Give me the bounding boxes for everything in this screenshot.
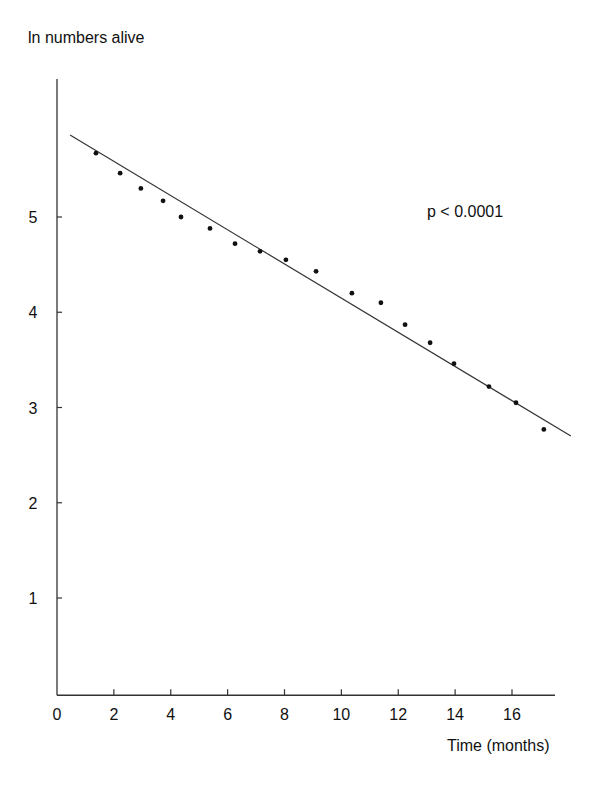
data-point bbox=[514, 400, 519, 405]
x-tick-label: 16 bbox=[503, 706, 521, 723]
regression-line bbox=[70, 135, 571, 436]
data-point bbox=[487, 384, 492, 389]
data-point bbox=[233, 241, 238, 246]
y-tick-label: 5 bbox=[29, 209, 38, 226]
data-point bbox=[403, 322, 408, 327]
x-tick-label: 2 bbox=[109, 706, 118, 723]
y-tick-label: 2 bbox=[29, 495, 38, 512]
data-point bbox=[428, 340, 433, 345]
data-point bbox=[541, 427, 546, 432]
data-point bbox=[138, 186, 143, 191]
axis-ticks: 024681012141612345 bbox=[29, 209, 521, 723]
x-tick-label: 0 bbox=[53, 706, 62, 723]
data-point bbox=[452, 361, 457, 366]
x-tick-label: 12 bbox=[389, 706, 407, 723]
y-axis-title: ln numbers alive bbox=[28, 29, 145, 47]
data-point bbox=[314, 269, 319, 274]
x-tick-label: 4 bbox=[166, 706, 175, 723]
y-tick-label: 4 bbox=[29, 304, 38, 321]
x-tick-label: 8 bbox=[280, 706, 289, 723]
p-value-annotation: p < 0.0001 bbox=[427, 203, 503, 221]
data-point bbox=[258, 249, 263, 254]
x-axis-title: Time (months) bbox=[447, 737, 550, 755]
data-point bbox=[118, 171, 123, 176]
x-tick-label: 6 bbox=[223, 706, 232, 723]
data-points bbox=[94, 151, 547, 432]
data-point bbox=[208, 226, 213, 231]
data-point bbox=[379, 300, 384, 305]
data-point bbox=[284, 257, 289, 262]
regression-line-path bbox=[70, 135, 571, 436]
y-tick-label: 1 bbox=[29, 590, 38, 607]
y-tick-label: 3 bbox=[29, 400, 38, 417]
data-point bbox=[179, 215, 184, 220]
x-tick-label: 14 bbox=[446, 706, 464, 723]
data-point bbox=[94, 151, 99, 156]
x-tick-label: 10 bbox=[332, 706, 350, 723]
chart-svg: 024681012141612345 bbox=[0, 0, 608, 795]
data-point bbox=[349, 291, 354, 296]
data-point bbox=[161, 198, 166, 203]
